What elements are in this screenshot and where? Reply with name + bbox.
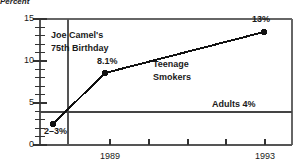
data-point-1993 [261,29,267,35]
teenage-smokers-annotation-line1: Teenage [153,60,189,69]
joe-camel-annotation-line2: 75th Birthday [51,44,109,53]
data-point-1989 [102,70,108,76]
data-label-1987: 2–3% [44,127,67,136]
y-tick-label-0: 0 [12,140,34,149]
joe-camel-annotation-line1: Joe Camel's [51,31,103,40]
teenage-smokers-annotation-line2: Smokers [153,73,191,82]
chart-canvas [0,0,304,167]
y-tick-label-15: 15 [12,14,34,23]
data-label-1989: 8.1% [97,57,118,66]
x-axis-ticks [110,139,265,145]
y-tick-label-5: 5 [12,98,34,107]
y-axis-title: Percent [0,0,29,6]
x-tick-label-1989: 1989 [90,152,130,161]
data-label-1993: 13% [252,15,270,24]
y-tick-label-10: 10 [12,56,34,65]
teenage-smokers-line-chart: Percent 15 10 5 0 1989 1993 Joe Camel's … [0,0,304,167]
x-tick-label-1993: 1993 [245,152,285,161]
adults-reference-label: Adults 4% [212,100,256,109]
